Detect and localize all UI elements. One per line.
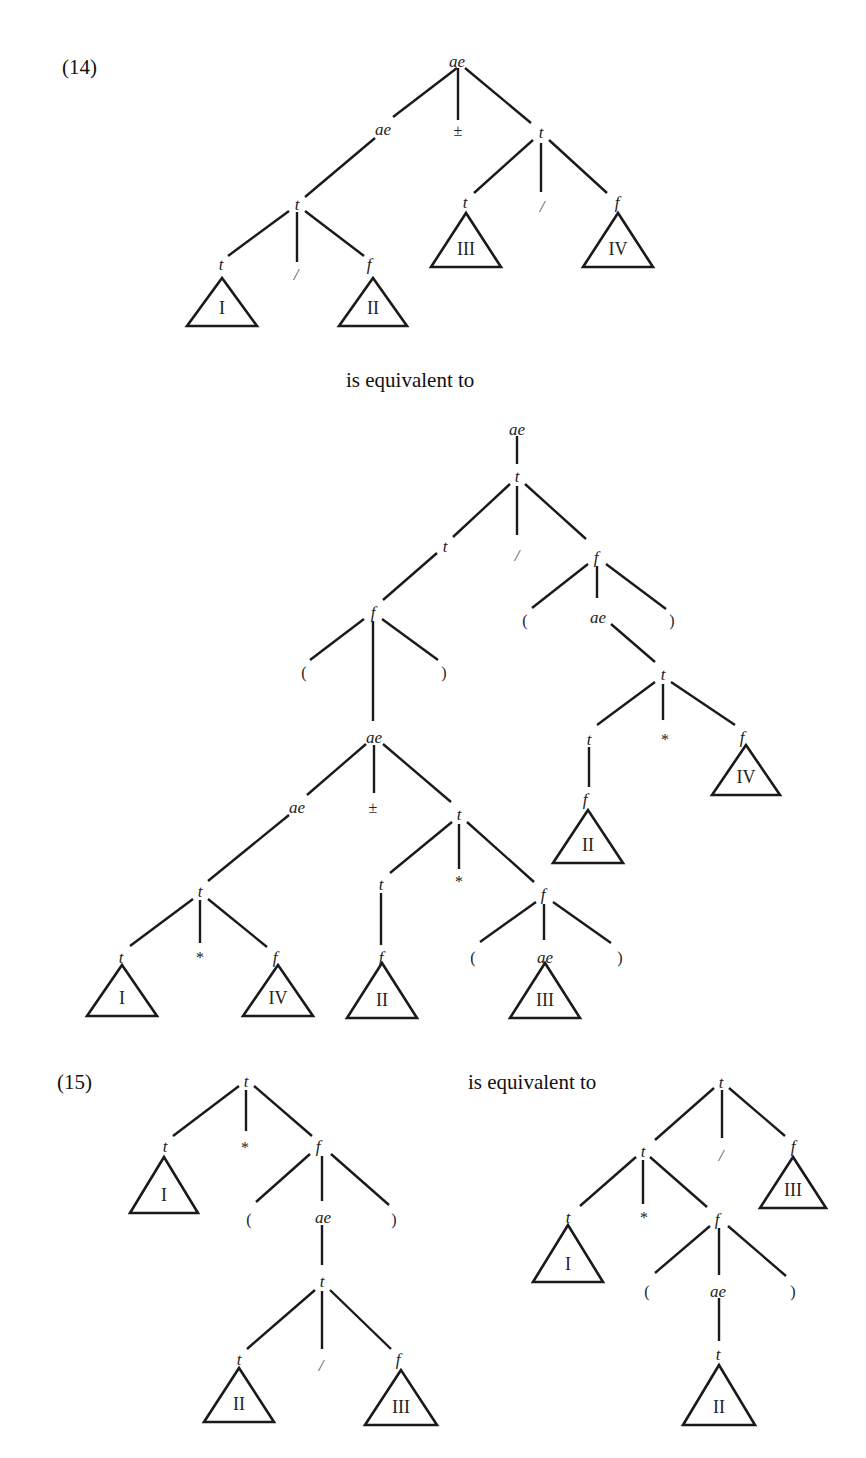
subtree-label: IV bbox=[269, 988, 288, 1008]
subtree-label: III bbox=[457, 239, 475, 259]
tree-15-right: IIIIIItt/ft*f(ae)t bbox=[533, 1073, 826, 1425]
subtree-triangle: II bbox=[683, 1365, 755, 1425]
subtree-label: III bbox=[392, 1397, 410, 1417]
tree-node-label: t bbox=[661, 665, 667, 684]
tree-node-label: t bbox=[587, 730, 593, 749]
tree-edge bbox=[256, 1154, 310, 1202]
tree-node-label: t bbox=[320, 1272, 326, 1291]
subtree-label: I bbox=[119, 988, 125, 1008]
tree-edge bbox=[208, 815, 289, 881]
subtree-triangle: I bbox=[187, 278, 257, 326]
tree-node-label: t bbox=[457, 805, 463, 824]
tree-node-label: f bbox=[583, 790, 590, 809]
tree-15-left: IIIIIItt*f(ae)tt/f bbox=[130, 1072, 437, 1425]
operator-symbol: * bbox=[196, 949, 204, 966]
tree-node-label: ae bbox=[315, 1208, 332, 1227]
equivalence-caption-1: is equivalent to bbox=[346, 368, 474, 392]
tree-edge bbox=[453, 484, 510, 537]
subtree-label: III bbox=[536, 990, 554, 1010]
subtree-label: I bbox=[161, 1185, 167, 1205]
tree-node-label: t bbox=[443, 537, 449, 556]
example-15-label: (15) bbox=[57, 1070, 92, 1094]
tree-node-label: ae bbox=[366, 728, 383, 747]
tree-edge bbox=[307, 744, 366, 795]
subtree-triangle: III bbox=[760, 1157, 826, 1208]
tree-node-label: f bbox=[396, 1350, 403, 1369]
tree-node-label: ae bbox=[449, 52, 466, 71]
subtree-triangle: IV bbox=[243, 965, 313, 1016]
tree-node-label: t bbox=[219, 255, 225, 274]
tree-node-label: f bbox=[371, 603, 378, 622]
tree-node-label: t bbox=[566, 1208, 572, 1227]
tree-edge bbox=[467, 822, 534, 882]
tree-edge bbox=[671, 682, 735, 725]
tree-node-label: ae bbox=[590, 608, 607, 627]
slash-operator: / bbox=[539, 197, 547, 216]
captions: (14) is equivalent to (15) is equivalent… bbox=[57, 55, 596, 1094]
subtree-triangle: I bbox=[130, 1157, 198, 1213]
slash-operator: / bbox=[514, 546, 522, 565]
tree-edge bbox=[553, 902, 611, 943]
operator-symbol: ± bbox=[369, 799, 378, 816]
tree-node-label: t bbox=[295, 195, 301, 214]
operator-symbol: * bbox=[640, 1209, 648, 1226]
tree-14-right: IVIIIIVIIIIIaett/f(ae)tt*fff()aeae±ttt*f… bbox=[87, 420, 780, 1018]
subtree-triangle: IV bbox=[583, 213, 653, 267]
tree-edge bbox=[382, 619, 438, 660]
tree-node-label: t bbox=[244, 1072, 250, 1091]
tree-edge bbox=[383, 553, 437, 600]
tree-node-label: t bbox=[539, 123, 545, 142]
slash-operator: / bbox=[718, 1146, 726, 1165]
operator-symbol: ) bbox=[669, 612, 674, 630]
tree-node-label: f bbox=[715, 1210, 722, 1229]
tree-edge bbox=[305, 138, 375, 197]
operator-symbol: ( bbox=[522, 612, 527, 630]
operator-symbol: ) bbox=[441, 664, 446, 682]
operator-symbol: ( bbox=[246, 1211, 251, 1229]
subtree-label: III bbox=[784, 1180, 802, 1200]
subtree-triangle: II bbox=[339, 278, 407, 326]
operator-symbol: ( bbox=[470, 949, 475, 967]
subtree-label: IV bbox=[609, 239, 628, 259]
tree-node-label: t bbox=[515, 467, 521, 486]
subtree-label: II bbox=[233, 1394, 245, 1414]
tree-node-label: f bbox=[541, 885, 548, 904]
tree-node-label: t bbox=[119, 948, 125, 967]
subtree-triangle: II bbox=[553, 810, 623, 863]
subtree-label: II bbox=[376, 990, 388, 1010]
operator-symbol: * bbox=[455, 873, 463, 890]
tree-node-label: t bbox=[163, 1137, 169, 1156]
tree-edge bbox=[393, 68, 457, 117]
slash-operator: / bbox=[318, 1356, 326, 1375]
tree-node-label: t bbox=[379, 875, 385, 894]
tree-node-label: f bbox=[379, 948, 386, 967]
tree-edge bbox=[330, 1290, 391, 1349]
tree-edge bbox=[173, 1086, 239, 1136]
operator-symbol: ( bbox=[301, 664, 306, 682]
tree-edge bbox=[525, 484, 586, 539]
tree-edge bbox=[549, 140, 607, 193]
tree-edge bbox=[729, 1088, 785, 1136]
tree-edge bbox=[228, 211, 289, 256]
slash-operator: / bbox=[293, 265, 301, 284]
tree-edge bbox=[532, 564, 588, 608]
tree-edge bbox=[390, 822, 452, 873]
subtree-triangle: III bbox=[365, 1370, 437, 1425]
tree-edge bbox=[130, 899, 193, 946]
tree-node-label: ae bbox=[537, 948, 554, 967]
tree-edge bbox=[606, 564, 666, 609]
tree-node-label: f bbox=[615, 193, 622, 212]
tree-edge bbox=[305, 211, 364, 256]
subtree-triangle: III bbox=[431, 213, 501, 267]
subtree-label: I bbox=[565, 1254, 571, 1274]
tree-edge bbox=[247, 1290, 315, 1349]
operator-symbol: ) bbox=[790, 1283, 795, 1301]
operator-symbol: * bbox=[661, 731, 669, 748]
tree-edge bbox=[480, 902, 536, 942]
operator-symbol: ( bbox=[644, 1283, 649, 1301]
operator-symbol: ) bbox=[617, 949, 622, 967]
subtree-triangle: I bbox=[87, 965, 157, 1016]
tree-node-label: f bbox=[367, 255, 374, 274]
tree-edge bbox=[254, 1086, 312, 1136]
subtree-label: II bbox=[367, 298, 379, 318]
